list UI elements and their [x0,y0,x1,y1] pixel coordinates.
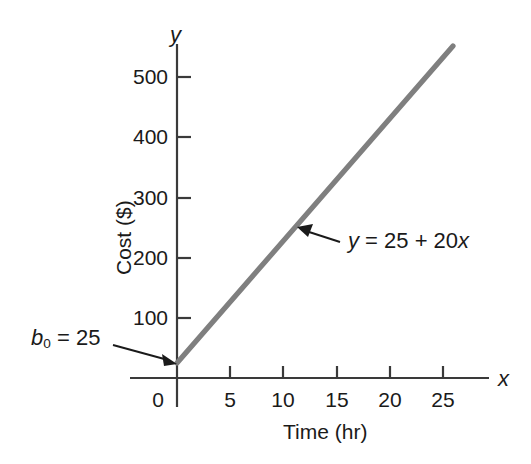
equation-mid: = 25 + 20 [359,228,458,253]
intercept-annotation-arrow [113,345,177,366]
equation-lhs: y [348,228,359,253]
x-tick-label-0: 0 [146,389,170,410]
y-tick-label-500: 500 [120,66,168,87]
y-tick-label-400: 400 [120,126,168,147]
x-tick-label-5: 5 [218,389,242,410]
x-tick-label-15: 15 [320,389,354,410]
equation-annotation-arrow [297,224,340,242]
x-axis-title: Time (hr) [283,421,367,442]
y-axis-title: Cost ($) [113,200,134,275]
x-axis-ticks [230,366,443,378]
intercept-subscript: 0 [43,336,51,351]
y-tick-label-100: 100 [120,307,168,328]
intercept-annotation-label: b0 = 25 [31,327,100,351]
x-tick-label-25: 25 [426,389,460,410]
equation-var: x [458,228,469,253]
intercept-rest: = 25 [51,325,101,350]
x-tick-label-10: 10 [266,389,300,410]
equation-annotation-label: y = 25 + 20x [348,230,469,252]
intercept-symbol: b [31,325,43,350]
data-line-series-0 [177,46,453,363]
x-axis-name: x [498,368,509,390]
x-tick-label-20: 20 [373,389,407,410]
y-axis-ticks [177,77,191,318]
chart-figure: y x 500 400 300 200 100 0 5 10 15 20 25 … [0,0,531,464]
y-axis-name: y [170,24,181,46]
